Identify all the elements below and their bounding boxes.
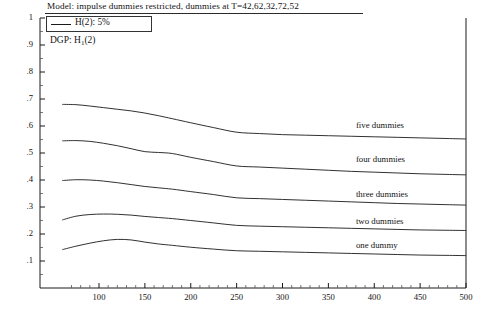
y-tick-label: .5	[11, 148, 33, 157]
plot-canvas	[0, 0, 478, 315]
series-line	[62, 104, 466, 139]
series-label: four dummies	[356, 155, 405, 164]
x-tick-label: 450	[403, 293, 437, 302]
x-tick-label: 500	[449, 293, 478, 302]
y-tick-label: .9	[11, 40, 33, 49]
y-tick-label: .4	[11, 175, 33, 184]
series-paths	[62, 104, 466, 255]
x-tick-label: 100	[82, 293, 116, 302]
y-axis-ticks	[40, 18, 45, 275]
series-line	[62, 214, 466, 230]
series-line	[62, 239, 466, 255]
series-label: five dummies	[356, 121, 404, 130]
y-tick-label: .7	[11, 94, 33, 103]
y-tick-label: 1	[11, 13, 33, 22]
x-tick-label: 400	[357, 293, 391, 302]
axis-frame	[40, 18, 466, 288]
y-tick-label: .8	[11, 67, 33, 76]
x-tick-label: 350	[311, 293, 345, 302]
series-line	[62, 141, 466, 175]
x-tick-label: 300	[266, 293, 300, 302]
y-tick-label: .1	[11, 256, 33, 265]
y-tick-label: .2	[11, 229, 33, 238]
x-tick-label: 250	[220, 293, 254, 302]
series-label: three dummies	[356, 190, 408, 199]
impulse-dummies-line-chart: Model: impulse dummies restricted, dummi…	[0, 0, 478, 315]
x-tick-label: 150	[128, 293, 162, 302]
x-tick-label: 200	[174, 293, 208, 302]
y-tick-label: .3	[11, 202, 33, 211]
series-label: two dummies	[356, 217, 404, 226]
series-label: one dummy	[356, 241, 398, 250]
y-tick-label: .6	[11, 121, 33, 130]
x-axis-ticks	[71, 283, 466, 288]
